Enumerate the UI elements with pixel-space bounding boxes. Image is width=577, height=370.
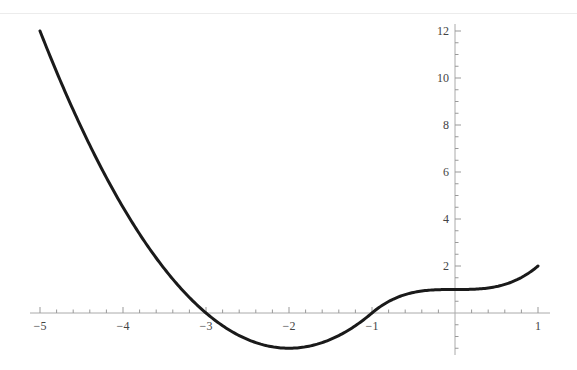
x-tick-label: −1	[366, 319, 379, 333]
tick-marks	[40, 31, 538, 348]
y-tick-label: 12	[437, 24, 449, 38]
tick-labels: −5−4−3−2−1124681012	[34, 24, 541, 333]
axes	[30, 24, 550, 355]
x-tick-label: −4	[117, 319, 130, 333]
y-tick-label: 10	[437, 71, 449, 85]
y-tick-label: 2	[443, 259, 449, 273]
x-tick-label: −3	[200, 319, 213, 333]
x-tick-label: −2	[283, 319, 296, 333]
line-chart: −5−4−3−2−1124681012	[0, 0, 577, 370]
function-curve	[40, 31, 538, 348]
y-tick-label: 4	[443, 212, 449, 226]
x-tick-label: 1	[535, 319, 541, 333]
y-tick-label: 8	[443, 118, 449, 132]
y-tick-label: 6	[443, 165, 449, 179]
x-tick-label: −5	[34, 319, 47, 333]
